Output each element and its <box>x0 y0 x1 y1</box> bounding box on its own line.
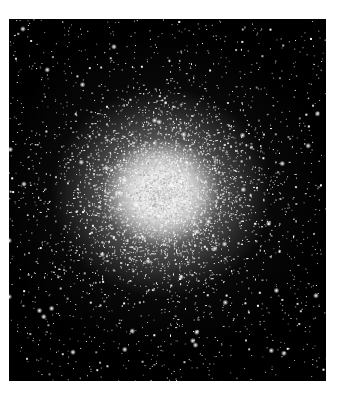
star-field <box>9 19 326 381</box>
star-cluster-photo: Globular star cluster <box>9 19 326 381</box>
